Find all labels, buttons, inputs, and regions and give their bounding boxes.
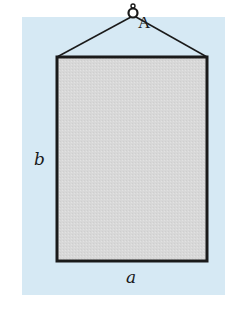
width-label-a: a: [126, 267, 136, 287]
height-label-b: b: [34, 149, 45, 169]
hanging-board-diagram: A b a: [0, 0, 240, 313]
rectangular-board: [57, 57, 207, 261]
point-label-a: A: [138, 13, 151, 32]
nail-ring-icon: [129, 4, 138, 18]
hanging-string: [57, 17, 207, 57]
